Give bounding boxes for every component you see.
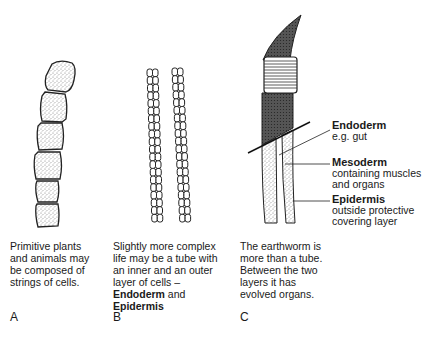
- caption-a: Primitive plants and animals may be comp…: [10, 240, 89, 288]
- label-desc: covering layer: [332, 216, 414, 227]
- caption-line: be composed of: [10, 264, 89, 276]
- caption-line: Between the two: [240, 264, 322, 276]
- caption-line: an inner and an outer: [113, 264, 217, 276]
- caption-line: layers it has: [240, 276, 322, 288]
- term-endoderm: Endoderm: [113, 288, 165, 300]
- caption-b: Slightly more complex life may be a tube…: [113, 240, 217, 312]
- label-desc: e.g. gut: [332, 131, 386, 142]
- caption-line: Primitive plants: [10, 240, 89, 252]
- caption-line: layer of cells –: [113, 276, 217, 288]
- cell-string-a: [34, 61, 75, 227]
- caption-line: The earthworm is: [240, 240, 322, 252]
- panel-letter-b: B: [113, 310, 121, 324]
- caption-line: evolved organs.: [240, 288, 322, 300]
- caption-c: The earthworm is more than a tube. Betwe…: [240, 240, 322, 300]
- panel-letter-a: A: [10, 310, 18, 324]
- label-endoderm: Endoderm e.g. gut: [332, 119, 386, 142]
- earthworm-c: [248, 15, 330, 223]
- label-mesoderm: Mesoderm containing muscles and organs: [332, 156, 421, 190]
- label-epidermis: Epidermis outside protective covering la…: [332, 193, 414, 227]
- caption-line: Endoderm and: [113, 288, 217, 300]
- panel-letter-c: C: [240, 310, 249, 324]
- label-desc: and organs: [332, 179, 421, 190]
- caption-line: and animals may: [10, 252, 89, 264]
- caption-line: life may be a tube with: [113, 252, 217, 264]
- caption-line: more than a tube.: [240, 252, 322, 264]
- caption-and: and: [165, 288, 185, 300]
- cell-chains-b: [147, 68, 191, 222]
- caption-line: strings of cells.: [10, 276, 89, 288]
- caption-line: Epidermis: [113, 300, 217, 312]
- caption-line: Slightly more complex: [113, 240, 217, 252]
